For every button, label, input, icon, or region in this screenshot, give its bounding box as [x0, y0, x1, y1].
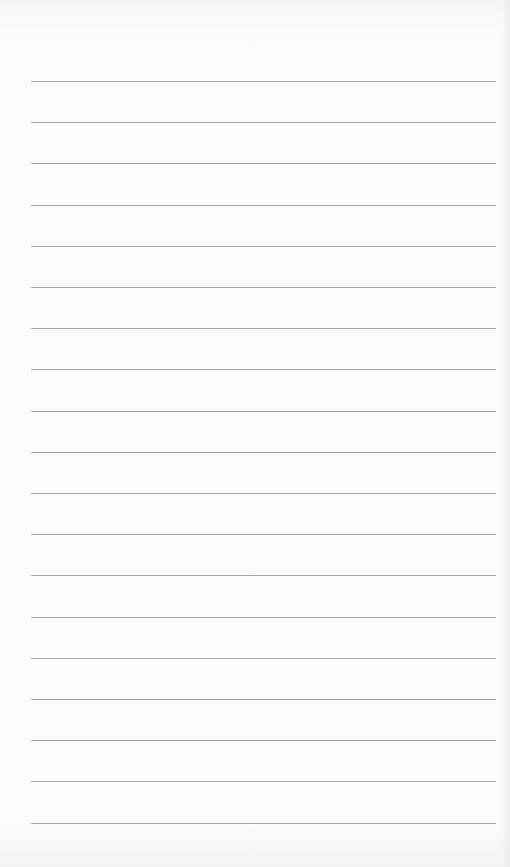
ruled-line [31, 122, 496, 123]
ruled-line [31, 493, 496, 494]
ruled-line [31, 740, 496, 741]
ruled-line [31, 411, 496, 412]
ruled-line [31, 246, 496, 247]
ruled-line [31, 658, 496, 659]
ruled-line [31, 287, 496, 288]
lined-paper-sheet [0, 0, 510, 867]
ruled-line [31, 163, 496, 164]
ruled-line [31, 81, 496, 82]
ruled-line [31, 575, 496, 576]
ruled-line [31, 369, 496, 370]
ruled-line [31, 699, 496, 700]
ruled-line [31, 823, 496, 824]
ruled-line [31, 205, 496, 206]
ruled-line [31, 617, 496, 618]
paper-edge-shadow [502, 0, 510, 867]
ruled-line [31, 328, 496, 329]
ruled-line [31, 452, 496, 453]
ruled-line [31, 781, 496, 782]
ruled-line [31, 534, 496, 535]
